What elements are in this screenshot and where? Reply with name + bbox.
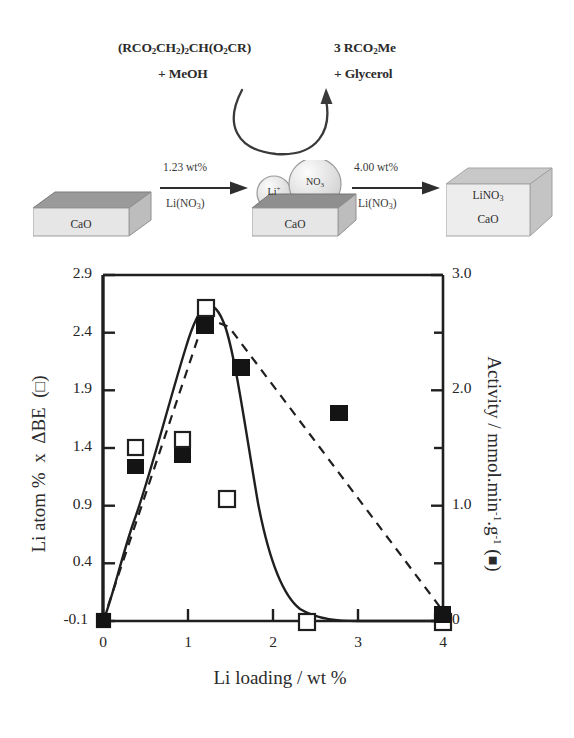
- y-axis-left-tick-label: 0.4: [46, 552, 92, 570]
- sphere-no3-label: NO3: [294, 176, 336, 189]
- x-axis-tick-label: 0: [83, 633, 123, 651]
- arrow1: [160, 181, 250, 195]
- arrow2-top-label: 4.00 wt%: [354, 161, 398, 173]
- lino3-block-top-label: LiNO3: [446, 189, 530, 203]
- reaction-scheme: (RCO2CH2)2CH(O2CR) + MeOH 3 RCO2Me + Gly…: [0, 0, 574, 255]
- product-glycerol: + Glycerol: [334, 66, 392, 82]
- arrow1-top-label: 1.23 wt%: [163, 161, 207, 173]
- series-open-square-curve: [103, 306, 443, 621]
- cao-block-left-label: CaO: [33, 218, 129, 230]
- arrow1-bottom-label: Li(NO3): [166, 197, 205, 211]
- x-axis-tick-label: 1: [168, 633, 208, 651]
- open-square-markers: [97, 300, 451, 630]
- y-axis-left-tick-label: 0.9: [46, 495, 92, 513]
- y-axis-right-tick-label: 1.0: [452, 495, 498, 513]
- product-formula: 3 RCO2Me: [334, 40, 396, 56]
- reactant-formula: (RCO2CH2)2CH(O2CR): [118, 40, 251, 56]
- y-axis-left-tick-label: 2.9: [46, 264, 92, 282]
- arrow2-bottom-label: Li(NO3): [358, 197, 397, 211]
- cao-block-middle-label: CaO: [252, 218, 338, 230]
- sphere-li-label: Li+: [256, 185, 292, 197]
- x-axis-tick-label: 4: [423, 633, 463, 651]
- reactant-methanol: + MeOH: [158, 66, 208, 82]
- x-axis-tick-label: 3: [338, 633, 378, 651]
- y-axis-left-ticks: [103, 275, 115, 621]
- x-axis-ticks: [103, 609, 443, 621]
- y-axis-left-tick-label: -0.1: [42, 610, 88, 628]
- figure-root: (RCO2CH2)2CH(O2CR) + MeOH 3 RCO2Me + Gly…: [0, 0, 574, 738]
- y-axis-right-ticks: [431, 275, 443, 621]
- arrow2: [352, 181, 442, 195]
- lino3-block-bottom-label: CaO: [446, 213, 530, 225]
- y-axis-right-tick-label: 0: [452, 610, 498, 628]
- y-axis-right-tick-label: 3.0: [452, 264, 498, 282]
- x-axis-tick-label: 2: [253, 633, 293, 651]
- y-axis-left-tick-label: 1.4: [46, 437, 92, 455]
- series-filled-square-curve: [103, 317, 443, 621]
- cao-block-middle: [252, 160, 362, 245]
- y-axis-left-tick-label: 2.4: [46, 322, 92, 340]
- y-axis-left-tick-label: 1.9: [46, 379, 92, 397]
- y-axis-right-tick-label: 2.0: [452, 379, 498, 397]
- cao-block-right: [446, 166, 556, 246]
- chart-panel: Li atom % x ΔBE (□) Activity / mmol.min-…: [0, 255, 574, 738]
- catalytic-cycle-arrow: [210, 88, 370, 163]
